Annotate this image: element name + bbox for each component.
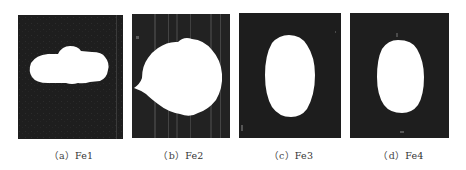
caption-c-label: Fe3 — [295, 150, 313, 161]
panel-b-image — [132, 14, 230, 138]
blob-fe4 — [350, 13, 449, 138]
panel-a-image — [18, 15, 123, 139]
blob-fe2 — [132, 14, 230, 138]
caption-a-label: Fe1 — [75, 150, 93, 161]
caption-a: （a）Fe1 — [40, 148, 102, 162]
panel-d-image — [350, 13, 449, 138]
panel-c-image — [239, 13, 341, 138]
blob-fe1 — [18, 15, 123, 139]
caption-d-prefix: （d） — [378, 150, 405, 161]
caption-b-prefix: （b） — [158, 150, 185, 161]
caption-c: （c）Fe3 — [260, 148, 322, 162]
caption-b: （b）Fe2 — [150, 148, 212, 162]
caption-a-prefix: （a） — [49, 150, 75, 161]
caption-c-prefix: （c） — [269, 150, 295, 161]
caption-b-label: Fe2 — [185, 150, 203, 161]
caption-d-label: Fe4 — [405, 150, 423, 161]
blob-fe3 — [239, 13, 341, 138]
caption-d: （d）Fe4 — [370, 148, 432, 162]
